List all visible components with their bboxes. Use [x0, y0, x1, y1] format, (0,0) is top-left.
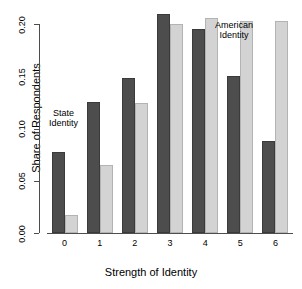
bar	[100, 165, 113, 233]
annotation-state-identity: State Identity	[49, 108, 78, 128]
y-axis-line	[39, 24, 40, 233]
bar	[157, 14, 170, 233]
y-tick: 0.15	[34, 76, 39, 77]
y-tick: 0.05	[34, 181, 39, 182]
x-tick-label: 5	[238, 238, 243, 248]
bar	[170, 24, 183, 233]
x-tick-label: 0	[62, 238, 67, 248]
x-tick-label: 1	[97, 238, 102, 248]
annotation-state-line1: State	[53, 108, 74, 118]
annotation-american-line1: American	[215, 20, 253, 30]
bar	[65, 215, 78, 233]
annotation-american-identity: American Identity	[215, 20, 253, 40]
annotation-american-line2: Identity	[219, 30, 248, 40]
bar	[52, 152, 65, 234]
y-tick-label: 0.05	[17, 172, 27, 190]
bar-chart: Share of Respondents 0.000.050.100.150.2…	[0, 0, 302, 289]
y-tick-label: 0.15	[17, 68, 27, 86]
x-axis-title: Strength of Identity	[0, 266, 302, 278]
x-tick-label: 6	[273, 238, 278, 248]
bar	[135, 103, 148, 233]
plot-area: 0.000.050.100.150.20 0123456 State Ident…	[47, 24, 293, 233]
bar	[227, 76, 240, 233]
x-tick-label: 3	[167, 238, 172, 248]
bar	[87, 102, 100, 233]
bar	[275, 21, 288, 233]
bar	[205, 18, 218, 233]
y-tick: 0.20	[34, 24, 39, 25]
bar	[262, 141, 275, 233]
bar	[192, 29, 205, 233]
annotation-state-line2: Identity	[49, 118, 78, 128]
y-tick: 0.10	[34, 129, 39, 130]
bar	[122, 78, 135, 233]
bar	[240, 21, 253, 233]
x-tick-label: 2	[132, 238, 137, 248]
y-tick-label: 0.00	[17, 225, 27, 243]
x-tick-label: 4	[203, 238, 208, 248]
y-axis-title: Share of Respondents	[30, 18, 42, 218]
y-tick: 0.00	[34, 233, 39, 234]
x-axis-line	[47, 233, 293, 234]
y-tick-label: 0.20	[17, 16, 27, 34]
y-tick-label: 0.10	[17, 120, 27, 138]
